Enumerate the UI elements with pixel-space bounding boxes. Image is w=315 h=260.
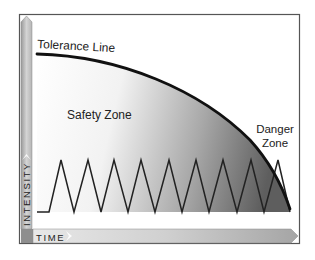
safety-zone-label: Safety Zone xyxy=(67,108,132,122)
x-axis-label: TIME xyxy=(36,232,65,243)
x-axis-bar: TIME xyxy=(21,229,298,243)
y-axis-bar: INTENSITY xyxy=(21,16,33,229)
tolerance-diagram: INTENSITY TIME Tolerance Line Safety Zon… xyxy=(0,0,315,260)
danger-zone-label-line1: Danger xyxy=(256,123,294,135)
danger-zone-label-line2: Zone xyxy=(262,137,288,149)
y-axis-label: INTENSITY xyxy=(21,162,32,226)
